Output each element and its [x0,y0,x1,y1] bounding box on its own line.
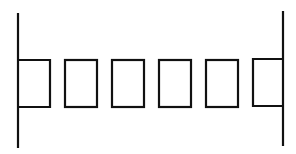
box-3-rectangle [112,60,144,107]
diagram-canvas: Two vertical lines with a row of six rec… [0,0,296,154]
box-1-rectangle [18,60,50,107]
box-2-rectangle [65,60,97,107]
box-6-rectangle [253,59,283,106]
box-4-rectangle [159,60,191,107]
box-5-rectangle [206,60,238,107]
diagram-figure [0,0,296,154]
